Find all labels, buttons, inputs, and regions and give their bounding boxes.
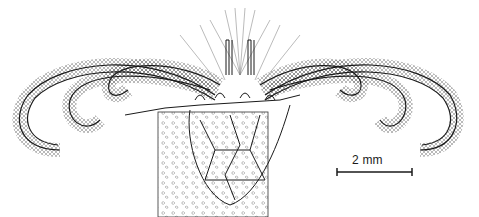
scale-bar-label: 2 mm: [352, 153, 383, 167]
substrate-block: [158, 112, 268, 217]
scale-bar: [337, 168, 412, 176]
specimen-illustration: [0, 0, 479, 217]
